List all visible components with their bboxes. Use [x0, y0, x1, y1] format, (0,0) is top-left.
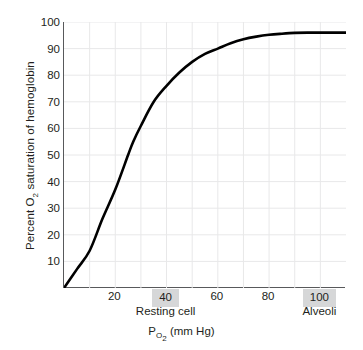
- y-tick-label: 80: [34, 70, 60, 82]
- horizontal-gridlines: [64, 22, 346, 261]
- x-tick-label: 80: [248, 289, 288, 304]
- y-tick-label: 90: [34, 44, 60, 56]
- x-tick-label: 20: [94, 289, 134, 304]
- chart-annotations: Resting cell Alveoli: [0, 304, 363, 322]
- oxygen-dissociation-curve-figure: Percent O2 saturation of hemoglobin 100 …: [0, 0, 363, 350]
- chart-canvas: [64, 22, 346, 288]
- y-tick-label: 10: [34, 256, 60, 268]
- x-axis-title: PO2 (mm Hg): [0, 325, 363, 343]
- annotation-resting-cell: Resting cell: [111, 304, 221, 319]
- y-tick-label: 40: [34, 177, 60, 189]
- y-tick-label: 50: [34, 150, 60, 162]
- x-axis-title-subscript-o: O2: [156, 331, 167, 340]
- saturation-curve: [64, 33, 346, 288]
- x-tick-label: 60: [197, 289, 237, 304]
- y-tick-label: 60: [34, 123, 60, 135]
- y-tick-label: 30: [34, 203, 60, 215]
- y-tick-label: 20: [34, 230, 60, 242]
- x-axis-title-post: (mm Hg): [167, 325, 215, 337]
- y-tick-label: 70: [34, 97, 60, 109]
- plot-area: [63, 22, 345, 288]
- x-axis-title-pre: P: [148, 325, 156, 337]
- annotation-alveoli: Alveoli: [264, 304, 363, 319]
- y-tick-label: 100: [34, 17, 60, 29]
